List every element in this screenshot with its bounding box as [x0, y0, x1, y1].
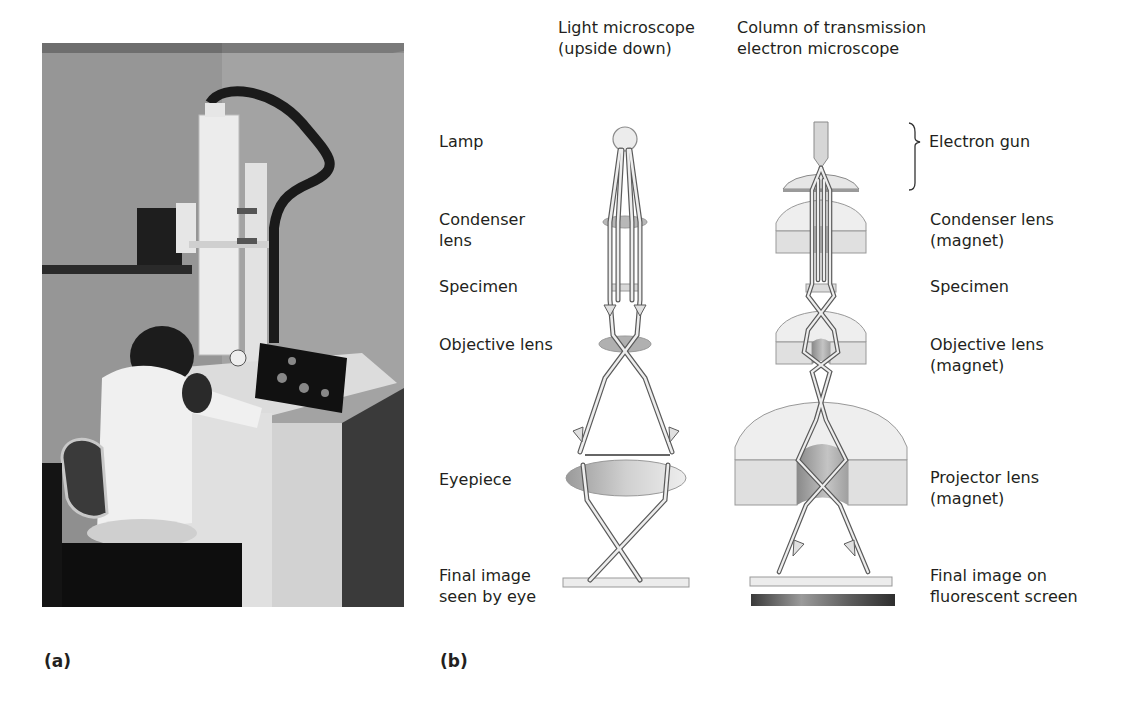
objective-magnet-icon — [776, 311, 866, 364]
tem-column-diagram — [735, 122, 920, 606]
electron-gun-icon — [814, 122, 828, 168]
lamp-icon — [613, 127, 637, 151]
microscope-comparison-diagram — [0, 0, 1133, 711]
light-microscope-diagram — [563, 127, 689, 587]
final-image-plate-icon — [563, 578, 689, 587]
tem-image-plate-icon — [750, 577, 892, 586]
condenser-magnet-icon — [776, 200, 866, 253]
electron-gun-brace — [909, 123, 920, 190]
specimen-slide-icon — [610, 284, 640, 291]
fluorescent-screen-icon — [751, 594, 895, 606]
